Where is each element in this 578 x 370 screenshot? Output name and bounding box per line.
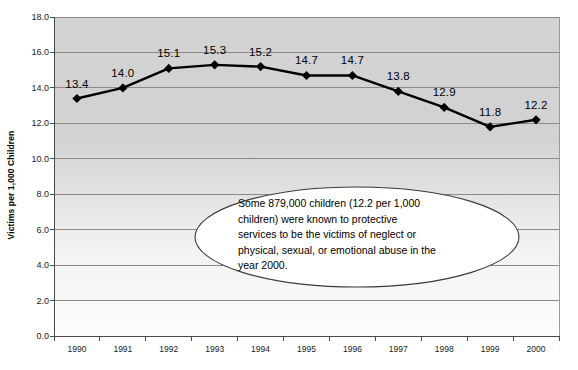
- data-point-label: 14.7: [295, 54, 318, 66]
- data-point-label: 15.3: [203, 44, 226, 56]
- data-point-label: 14.0: [111, 67, 134, 79]
- data-point-label: 15.2: [249, 46, 272, 58]
- line-chart: Victims per 1,000 Children 18.016.014.01…: [0, 0, 578, 370]
- callout-text-line: physical, sexual, or emotional abuse in …: [238, 243, 502, 259]
- data-point-labels: 13.414.015.115.315.214.714.713.812.911.8…: [0, 0, 578, 370]
- data-point-label: 13.8: [387, 70, 410, 82]
- data-point-label: 14.7: [341, 54, 364, 66]
- data-point-label: 12.9: [433, 86, 456, 98]
- data-point-label: 11.8: [479, 106, 501, 118]
- data-point-label: 15.1: [157, 47, 180, 59]
- data-point-label: 12.2: [524, 99, 547, 111]
- callout-text-line: year 2000.: [238, 258, 502, 274]
- callout-text-line: children) were known to protective: [238, 212, 502, 228]
- data-point-label: 13.4: [65, 78, 88, 90]
- callout-text: Some 879,000 children (12.2 per 1,000chi…: [238, 196, 502, 274]
- callout-text-line: Some 879,000 children (12.2 per 1,000: [238, 196, 502, 212]
- callout-text-line: services to be the victims of neglect or: [238, 227, 502, 243]
